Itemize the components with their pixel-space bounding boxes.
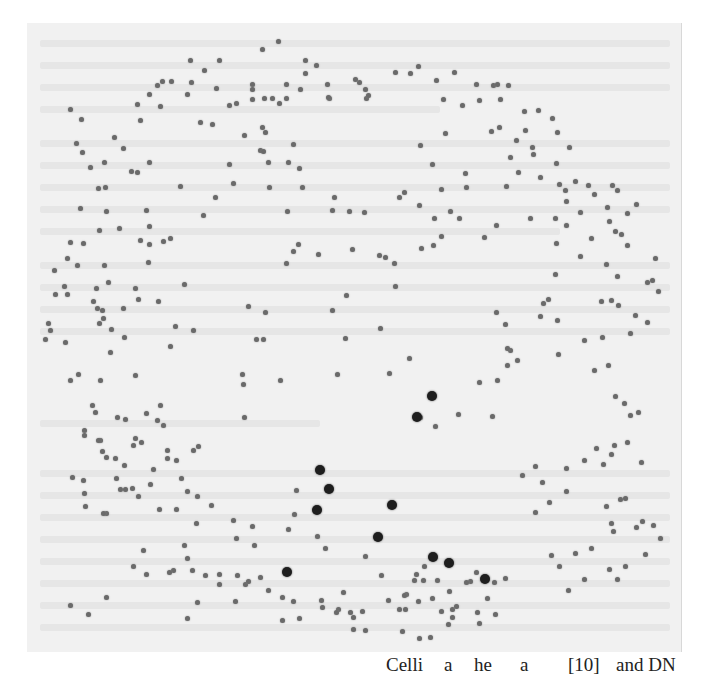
small-dot — [178, 184, 183, 189]
ghost-text-line — [40, 536, 670, 543]
small-dot — [325, 82, 330, 87]
small-dot — [90, 403, 95, 408]
small-dot — [634, 525, 639, 530]
small-dot — [52, 268, 57, 273]
small-dot — [196, 444, 201, 449]
small-dot — [165, 456, 170, 461]
small-dot — [80, 150, 85, 155]
small-dot — [658, 536, 663, 541]
small-dot — [195, 494, 200, 499]
small-dot — [79, 117, 84, 122]
small-dot — [464, 580, 469, 585]
small-dot — [582, 458, 587, 463]
small-dot — [505, 346, 510, 351]
small-dot — [231, 181, 236, 186]
small-dot — [133, 373, 138, 378]
small-dot — [366, 93, 371, 98]
small-dot — [280, 595, 285, 600]
small-dot — [118, 487, 123, 492]
small-dot — [540, 480, 545, 485]
small-dot — [522, 109, 527, 114]
small-dot — [553, 272, 558, 277]
small-dot — [174, 507, 179, 512]
small-dot — [402, 593, 407, 598]
small-dot — [589, 236, 594, 241]
small-dot — [104, 209, 109, 214]
ghost-text-line — [40, 306, 670, 313]
small-dot — [555, 318, 560, 323]
small-dot — [46, 321, 51, 326]
small-dot — [530, 145, 535, 150]
small-dot — [82, 428, 87, 433]
small-dot — [408, 71, 413, 76]
small-dot — [454, 604, 459, 609]
small-dot — [104, 595, 109, 600]
small-dot — [498, 97, 503, 102]
small-dot — [393, 284, 398, 289]
small-dot — [612, 443, 617, 448]
small-dot — [578, 254, 583, 259]
small-dot — [123, 417, 128, 422]
small-dot — [167, 570, 172, 575]
small-dot — [74, 141, 79, 146]
small-dot — [619, 232, 624, 237]
small-dot — [360, 609, 365, 614]
small-dot — [227, 162, 232, 167]
ghost-text-line — [40, 328, 670, 335]
small-dot — [161, 239, 166, 244]
small-dot — [284, 82, 289, 87]
small-dot — [123, 487, 128, 492]
small-dot — [605, 205, 610, 210]
small-dot — [607, 567, 612, 572]
small-dot — [93, 410, 98, 415]
small-dot — [263, 310, 268, 315]
small-dot — [625, 440, 630, 445]
small-dot — [297, 616, 302, 621]
small-dot — [556, 352, 561, 357]
small-dot — [210, 122, 215, 127]
small-dot — [549, 553, 554, 558]
small-dot — [439, 234, 444, 239]
small-dot — [417, 636, 422, 641]
small-dot — [645, 320, 650, 325]
small-dot — [606, 363, 611, 368]
ghost-text-line — [40, 492, 670, 499]
small-dot — [348, 610, 353, 615]
small-dot — [291, 142, 296, 147]
small-dot — [133, 286, 138, 291]
small-dot — [493, 612, 498, 617]
ghost-text-line — [40, 206, 670, 213]
small-dot — [636, 410, 641, 415]
small-dot — [156, 299, 161, 304]
small-dot — [276, 39, 281, 44]
small-dot — [347, 209, 352, 214]
small-dot — [412, 578, 417, 583]
small-dot — [233, 599, 238, 604]
small-dot — [135, 102, 140, 107]
small-dot — [607, 219, 612, 224]
small-dot — [83, 504, 88, 509]
small-dot — [81, 241, 86, 246]
small-dot — [566, 588, 571, 593]
small-dot — [144, 572, 149, 577]
small-dot — [266, 160, 271, 165]
small-dot — [285, 209, 290, 214]
small-dot — [191, 328, 196, 333]
ghost-text-line — [40, 420, 320, 427]
small-dot — [130, 486, 135, 491]
small-dot — [557, 564, 562, 569]
small-dot — [611, 529, 616, 534]
ghost-text-line — [40, 140, 670, 147]
small-dot — [330, 308, 335, 313]
small-dot — [643, 552, 648, 557]
small-dot — [217, 572, 222, 577]
small-dot — [622, 401, 627, 406]
small-dot — [185, 489, 190, 494]
small-dot — [191, 448, 196, 453]
small-dot — [474, 82, 479, 87]
small-dot — [589, 546, 594, 551]
small-dot — [503, 322, 508, 327]
small-dot — [286, 527, 291, 532]
small-dot — [280, 618, 285, 623]
small-dot — [536, 108, 541, 113]
